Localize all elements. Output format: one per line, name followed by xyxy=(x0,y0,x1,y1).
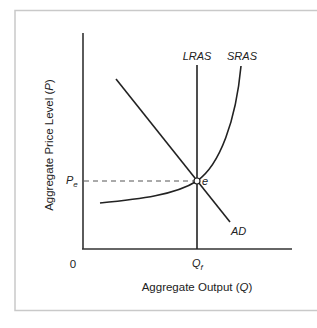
equilibrium-label: e xyxy=(202,175,208,187)
origin-label: 0 xyxy=(70,258,76,270)
ad-as-diagram: LRAS SRAS AD e Pe Qf 0 Aggregate Output … xyxy=(0,0,317,328)
x-axis-title: Aggregate Output (Q) xyxy=(142,281,253,293)
figure-frame xyxy=(15,11,317,311)
ad-label: AD xyxy=(230,225,246,237)
y-axis-title: Aggregate Price Level (P) xyxy=(43,79,55,211)
output-full-employment-label: Qf xyxy=(192,257,204,272)
sras-label: SRAS xyxy=(227,50,258,62)
price-equilibrium-label: Pe xyxy=(66,174,78,189)
ad-curve xyxy=(116,79,230,222)
lras-label: LRAS xyxy=(183,50,212,62)
equilibrium-point xyxy=(194,178,200,184)
